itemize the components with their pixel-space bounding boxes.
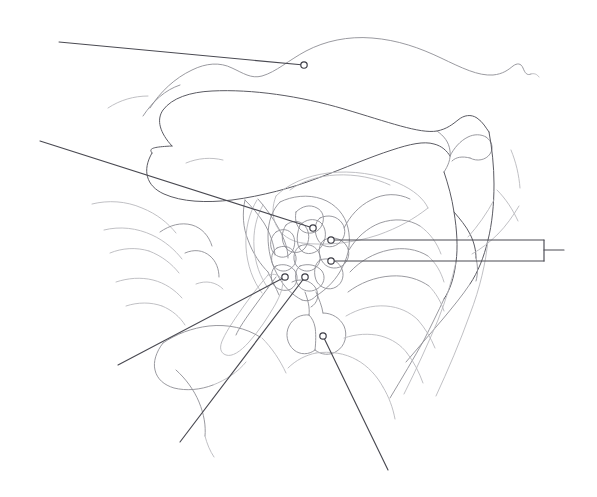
leader-right-upper-marker[interactable] bbox=[328, 237, 334, 243]
leader-mid-left-marker[interactable] bbox=[310, 225, 316, 231]
leader-lower-right-marker[interactable] bbox=[320, 333, 326, 339]
leader-upper-left-marker[interactable] bbox=[301, 62, 307, 68]
leader-lower-left-a-marker[interactable] bbox=[282, 274, 288, 280]
canvas-background bbox=[0, 0, 597, 497]
leader-lower-left-b-marker[interactable] bbox=[302, 274, 308, 280]
figure-root: Sagittal anatomical line diagram Unlabel… bbox=[0, 0, 597, 497]
leader-right-lower-marker[interactable] bbox=[328, 258, 334, 264]
anatomy-diagram-canvas bbox=[0, 0, 597, 497]
